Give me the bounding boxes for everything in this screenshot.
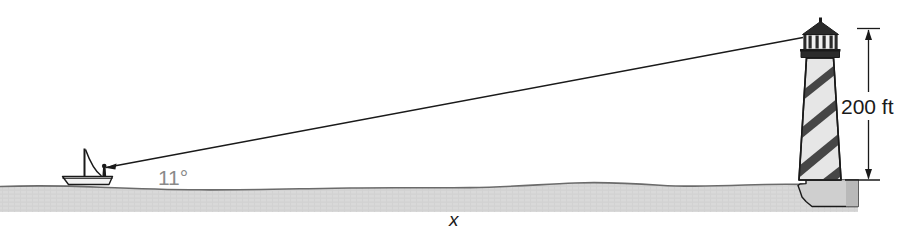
dimension-arrow-top (865, 30, 872, 41)
angle-label: 11° (158, 166, 188, 189)
boat-hull (63, 177, 113, 185)
sailboat (63, 149, 113, 185)
lighthouse-finial (819, 18, 822, 23)
observer-head (102, 164, 107, 169)
trig-diagram-figure: 11° 200 ft x (0, 0, 910, 244)
height-label: 200 ft (841, 95, 894, 118)
lantern-bar-3 (823, 36, 826, 49)
boat-sail (86, 150, 102, 177)
lantern-bar-2 (816, 36, 819, 49)
lighthouse-lantern-room (804, 35, 837, 50)
diagram-canvas: 11° 200 ft x (0, 0, 910, 244)
lighthouse-gallery (801, 51, 840, 58)
lantern-frame-right (835, 35, 837, 50)
ground-band (0, 180, 858, 212)
lantern-bar-1 (809, 36, 812, 49)
lantern-frame-left (804, 35, 806, 50)
dimension-arrow-bottom (865, 169, 872, 180)
observer-body (102, 168, 106, 177)
distance-label: x (448, 209, 460, 230)
lantern-bar-4 (830, 36, 833, 49)
sight-line-segment (106, 38, 803, 168)
sight-line-arrowhead (105, 163, 117, 169)
line-of-sight (105, 38, 803, 170)
lighthouse-roof (803, 22, 839, 35)
observer-person (102, 164, 107, 177)
